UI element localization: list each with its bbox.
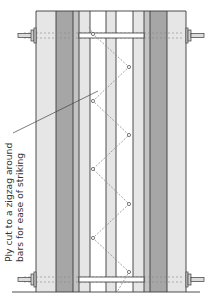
right-outer-rail	[167, 11, 186, 292]
left-outer-rail	[36, 11, 56, 292]
top-bar	[79, 33, 144, 38]
annotation-label: Ply cut to a zigzag around bars for ease…	[4, 143, 25, 262]
top-left-rod-end	[18, 34, 32, 38]
gap-right	[116, 11, 133, 292]
bottom-right-nut	[188, 274, 191, 285]
top-right-nut	[188, 30, 191, 41]
left-mid-rail	[73, 11, 79, 292]
annotation-line-2: bars for ease of striking	[15, 143, 26, 262]
zigzag-node	[91, 99, 94, 102]
zigzag-node	[127, 133, 130, 136]
bottom-bar	[79, 277, 144, 282]
zigzag-node	[91, 167, 94, 170]
bottom-left-rod-end	[18, 278, 32, 282]
bottom-left-nut	[31, 274, 34, 285]
zigzag-node	[127, 270, 130, 273]
annotation-line-1: Ply cut to a zigzag around	[4, 143, 15, 262]
bottom-right-rod-end	[191, 278, 204, 282]
right-mid-rail	[144, 11, 150, 292]
top-left-nut	[31, 30, 34, 41]
frame-diagram	[0, 0, 208, 302]
left-dark-rail	[56, 11, 73, 292]
zigzag-node	[127, 65, 130, 68]
zigzag-node	[91, 32, 94, 35]
right-dark-rail	[150, 11, 167, 292]
bottom-left-washer	[34, 272, 36, 287]
zigzag-node	[127, 202, 130, 205]
gap-left	[90, 11, 106, 292]
zigzag-node	[91, 236, 94, 239]
top-left-washer	[34, 28, 36, 43]
top-right-rod-end	[191, 34, 204, 38]
left-inner-rail	[79, 11, 90, 292]
right-inner-rail	[133, 11, 144, 292]
